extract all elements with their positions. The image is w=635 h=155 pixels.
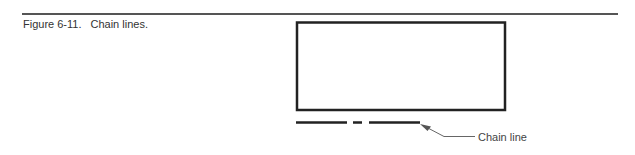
leader-line [420,124,475,137]
object-rectangle [297,23,505,111]
callout-label: Chain line [478,131,527,143]
arrowhead-icon [420,124,431,131]
chain-line-figure [0,0,635,155]
